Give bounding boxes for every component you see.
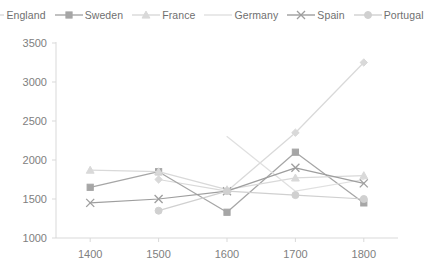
x-axis-tick-label: 1700 — [272, 248, 318, 260]
data-point — [224, 188, 231, 195]
data-point — [360, 196, 367, 203]
series-line — [90, 152, 364, 212]
series-sweden — [87, 149, 367, 215]
data-point — [155, 176, 162, 183]
y-axis-tick-label: 3000 — [7, 76, 47, 88]
x-axis-tick-label: 1800 — [341, 248, 387, 260]
data-point — [224, 209, 230, 215]
x-axis-tick-label: 1500 — [136, 248, 182, 260]
data-point — [155, 207, 162, 214]
series-line — [227, 137, 364, 192]
series-germany — [227, 137, 364, 192]
data-point — [87, 184, 93, 190]
series-line — [159, 63, 364, 192]
y-axis-tick-label: 3500 — [7, 37, 47, 49]
series-portugal — [155, 188, 367, 215]
y-axis-tick-label: 1000 — [7, 232, 47, 244]
series-england — [155, 59, 368, 195]
y-axis-tick-label: 2000 — [7, 154, 47, 166]
data-point — [292, 149, 298, 155]
y-axis-tick-label: 2500 — [7, 115, 47, 127]
data-point — [292, 192, 299, 199]
x-axis-tick-label: 1600 — [204, 248, 250, 260]
x-axis-tick-label: 1400 — [67, 248, 113, 260]
series-line — [159, 191, 364, 211]
y-axis-tick-label: 1500 — [7, 193, 47, 205]
